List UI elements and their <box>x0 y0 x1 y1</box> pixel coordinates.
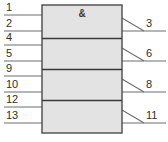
diagram-canvas: 1234569108121311 & <box>0 0 168 142</box>
input-pin-label-5: 5 <box>6 47 12 59</box>
input-pin-label-10: 10 <box>6 78 18 90</box>
input-pin-label-1: 1 <box>6 1 12 13</box>
logic-symbol-diagram: 1234569108121311 & <box>0 0 168 142</box>
output-pin-label-3: 3 <box>146 17 152 29</box>
input-pin-label-12: 12 <box>6 93 18 105</box>
output-slash-3 <box>122 18 144 31</box>
output-pin-label-11: 11 <box>146 109 157 121</box>
input-pin-label-4: 4 <box>6 31 12 43</box>
and-qualifier-symbol: & <box>78 8 85 19</box>
input-pin-label-13: 13 <box>6 109 18 121</box>
output-slash-11 <box>122 110 144 123</box>
output-pin-label-8: 8 <box>146 78 152 90</box>
input-pin-label-9: 9 <box>6 62 12 74</box>
input-pin-label-2: 2 <box>6 17 12 29</box>
output-slash-6 <box>122 48 144 61</box>
output-slash-8 <box>122 79 144 92</box>
output-pin-label-6: 6 <box>146 47 152 59</box>
